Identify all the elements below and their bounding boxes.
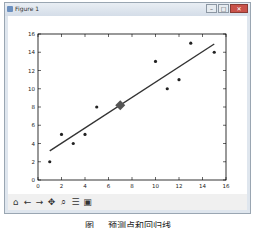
x-tick-label: 10 xyxy=(152,183,159,189)
data-point xyxy=(213,51,216,54)
x-tick-label: 0 xyxy=(36,183,40,189)
plot-area xyxy=(38,34,226,180)
data-point xyxy=(60,133,63,136)
minimize-button[interactable]: – xyxy=(206,4,217,13)
data-point xyxy=(48,160,51,163)
data-point xyxy=(95,105,98,108)
figure-canvas[interactable]: 02468101214160246810121416 xyxy=(8,16,247,194)
pan-icon: ✥ xyxy=(48,197,56,207)
back-icon: ← xyxy=(24,197,32,207)
zoom-icon: ⌕ xyxy=(61,197,66,208)
data-point xyxy=(166,87,169,90)
navigation-toolbar: ⌂←→✥⌕☰▣ xyxy=(8,194,247,210)
x-tick-label: 12 xyxy=(176,183,183,189)
save-button[interactable]: ▣ xyxy=(82,196,93,208)
x-tick-label: 4 xyxy=(83,183,87,189)
figure-caption: 图 … 预测点和回归线 xyxy=(0,219,256,228)
y-tick-label: 4 xyxy=(32,141,36,147)
x-tick-label: 14 xyxy=(199,183,206,189)
y-tick-label: 6 xyxy=(32,122,36,128)
home-icon: ⌂ xyxy=(13,197,19,207)
x-tick-label: 8 xyxy=(130,183,134,189)
client-area: 02468101214160246810121416 ⌂←→✥⌕☰▣ xyxy=(8,16,247,210)
back-button[interactable]: ← xyxy=(22,196,33,208)
y-tick-label: 12 xyxy=(28,68,35,74)
pan-button[interactable]: ✥ xyxy=(46,196,57,208)
close-button[interactable]: ✕ xyxy=(230,4,248,13)
zoom-button[interactable]: ⌕ xyxy=(58,196,69,208)
data-point xyxy=(72,142,75,145)
data-point xyxy=(83,133,86,136)
y-tick-label: 2 xyxy=(32,159,36,165)
y-tick-label: 0 xyxy=(32,177,36,183)
app-icon xyxy=(7,6,13,12)
maximize-button[interactable]: □ xyxy=(218,4,229,13)
y-tick-label: 16 xyxy=(28,31,35,37)
home-button[interactable]: ⌂ xyxy=(10,196,21,208)
figure-window: Figure 1 – □ ✕ 0246810121416024681012141… xyxy=(4,2,251,214)
subplots-icon: ☰ xyxy=(71,197,79,207)
y-tick-label: 14 xyxy=(28,49,35,55)
title-bar[interactable]: Figure 1 – □ ✕ xyxy=(5,3,250,16)
x-tick-label: 2 xyxy=(60,183,64,189)
y-tick-label: 8 xyxy=(32,104,36,110)
save-icon: ▣ xyxy=(83,197,92,207)
data-point xyxy=(177,78,180,81)
window-title: Figure 1 xyxy=(15,5,39,12)
data-point xyxy=(154,60,157,63)
x-tick-label: 16 xyxy=(223,183,230,189)
forward-icon: → xyxy=(36,197,44,207)
scatter-chart: 02468101214160246810121416 xyxy=(8,16,249,196)
data-point xyxy=(189,42,192,45)
subplots-button[interactable]: ☰ xyxy=(70,196,81,208)
y-tick-label: 10 xyxy=(28,86,35,92)
forward-button[interactable]: → xyxy=(34,196,45,208)
x-tick-label: 6 xyxy=(107,183,111,189)
